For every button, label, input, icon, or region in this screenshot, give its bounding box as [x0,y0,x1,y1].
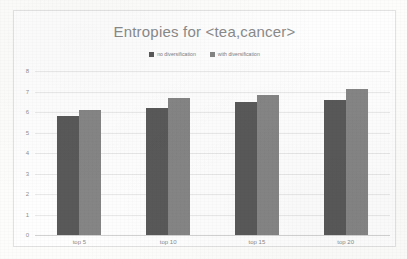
bar-top-15-series-1[interactable] [257,95,279,235]
bar-top-20-series-1[interactable] [346,89,368,235]
plot-area [35,71,390,235]
gridline-0 [35,235,390,236]
x-tick-label: top 5 [35,239,124,245]
legend-swatch-icon [210,52,215,57]
chart-title: Entropies for <tea,cancer> [14,23,395,40]
bar-group-0 [35,71,124,235]
chart-legend: no diversificationwith diversification [14,51,395,57]
x-tick-label: top 15 [213,239,302,245]
y-tick-label: 7 [26,89,29,95]
y-tick-label: 8 [26,68,29,74]
legend-item-1[interactable]: with diversification [210,51,260,57]
legend-item-0[interactable]: no diversification [149,51,196,57]
y-axis: 012345678 [14,71,32,235]
x-tick-label: top 20 [301,239,390,245]
bar-top-10-series-0[interactable] [146,108,168,235]
x-tick-label: top 10 [124,239,213,245]
legend-label: with diversification [218,51,260,57]
bar-top-10-series-1[interactable] [168,98,190,235]
y-tick-label: 0 [26,232,29,238]
bar-top-5-series-1[interactable] [79,110,101,235]
chart-frame: Entropies for <tea,cancer> no diversific… [13,10,396,247]
y-tick-label: 1 [26,212,29,218]
bar-group-1 [124,71,213,235]
y-tick-label: 4 [26,150,29,156]
y-tick-label: 3 [26,171,29,177]
bar-top-15-series-0[interactable] [235,102,257,235]
bar-group-3 [301,71,390,235]
y-tick-label: 2 [26,191,29,197]
chart-page: Entropies for <tea,cancer> no diversific… [0,0,407,259]
bar-top-5-series-0[interactable] [57,116,79,235]
bar-group-2 [213,71,302,235]
x-axis: top 5top 10top 15top 20 [35,239,390,245]
y-tick-label: 5 [26,130,29,136]
bars-layer [35,71,390,235]
y-tick-label: 6 [26,109,29,115]
legend-label: no diversification [157,51,196,57]
legend-swatch-icon [149,52,154,57]
bar-top-20-series-0[interactable] [324,100,346,235]
